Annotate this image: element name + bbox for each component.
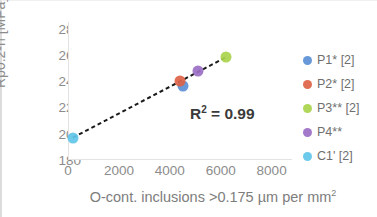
data-point — [67, 132, 78, 143]
legend-swatch-icon — [303, 128, 312, 137]
scatter-chart: Rp0.2-n [MPa] 180200220240260280 0200040… — [0, 0, 377, 217]
legend-item-label: P1* [2] — [317, 53, 355, 67]
legend-item[interactable]: P1* [2] — [303, 48, 377, 72]
plot-inner — [69, 22, 292, 159]
legend-item-label: P4** — [317, 125, 342, 139]
x-axis-tick-label: 8000 — [257, 163, 287, 178]
x-axis-title-superscript: 2 — [331, 188, 336, 198]
legend-item[interactable]: P4** — [303, 120, 377, 144]
legend-item[interactable]: P2* [2] — [303, 72, 377, 96]
data-point — [175, 76, 186, 87]
x-axis-title-text: O-cont. inclusions >0.175 µm per mm — [90, 189, 332, 205]
data-point — [220, 52, 231, 63]
x-axis-tick-label: 0 — [64, 163, 72, 178]
x-axis-tick-label: 4000 — [155, 163, 185, 178]
y-axis-title: Rp0.2-n [MPa] — [0, 0, 8, 88]
x-axis-title: O-cont. inclusions >0.175 µm per mm2 — [68, 188, 358, 205]
legend-item-label: P2* [2] — [317, 77, 355, 91]
x-axis-tick-label: 6000 — [206, 163, 236, 178]
legend-swatch-icon — [303, 56, 312, 65]
data-point — [192, 65, 203, 76]
legend-item-label: P3** [2] — [317, 101, 359, 115]
legend-swatch-icon — [303, 152, 312, 161]
x-axis-tick-label: 2000 — [104, 163, 134, 178]
legend-swatch-icon — [303, 80, 312, 89]
legend-item[interactable]: P3** [2] — [303, 96, 377, 120]
r-squared-annotation: R2 = 0.99 — [190, 104, 255, 123]
legend-item[interactable]: C1' [2] — [303, 144, 377, 168]
plot-area — [68, 22, 292, 160]
legend-item-label: C1' [2] — [317, 149, 353, 163]
r-squared-value: = 0.99 — [211, 105, 255, 122]
legend: P1* [2]P2* [2]P3** [2]P4**C1' [2] — [303, 48, 377, 168]
legend-swatch-icon — [303, 104, 312, 113]
r-squared-symbol: R — [190, 105, 201, 122]
r-squared-exponent: 2 — [201, 104, 207, 115]
